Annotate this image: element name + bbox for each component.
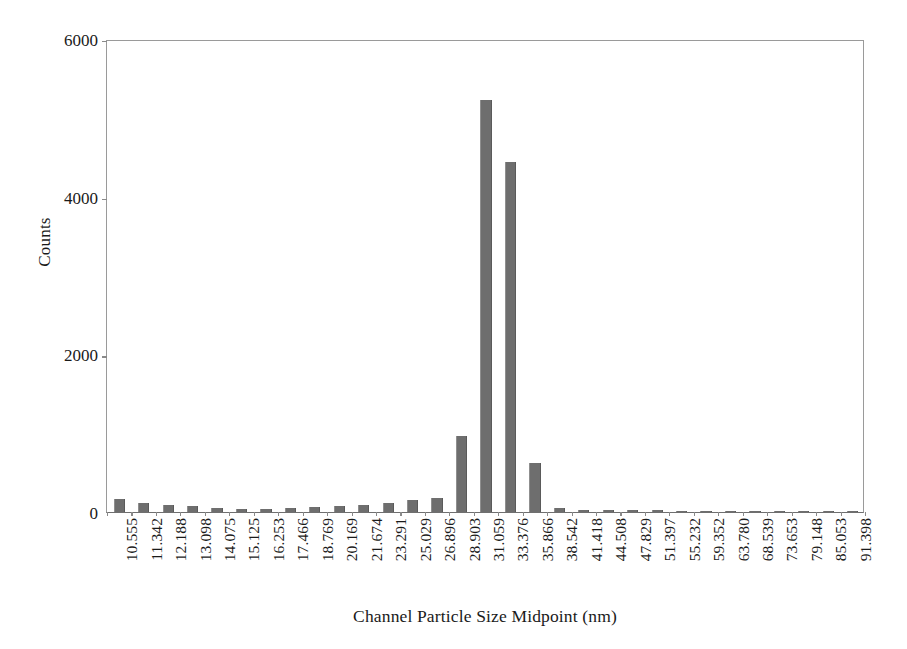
x-tick-mark — [254, 512, 255, 516]
x-tick-label: 23.291 — [393, 518, 409, 561]
bar — [456, 436, 467, 512]
bar — [114, 499, 125, 512]
x-tick-mark — [743, 512, 744, 516]
x-tick-mark — [474, 512, 475, 516]
y-tick-label: 4000 — [36, 189, 98, 206]
x-tick-label: 47.829 — [638, 518, 654, 561]
x-tick-mark — [229, 512, 230, 516]
x-tick-label: 59.352 — [711, 518, 727, 561]
y-tick-mark — [102, 356, 107, 357]
x-tick-label: 28.903 — [467, 518, 483, 561]
x-tick-mark — [596, 512, 597, 516]
bar — [138, 503, 149, 512]
bar — [529, 463, 540, 512]
x-tick-mark — [645, 512, 646, 516]
x-tick-label: 16.253 — [271, 518, 287, 561]
chart-figure: Counts 0200040006000 10.55511.34212.1881… — [0, 0, 907, 649]
x-tick-label: 31.059 — [491, 518, 507, 561]
bar — [260, 509, 271, 512]
x-axis-title: Channel Particle Size Midpoint (nm) — [106, 606, 864, 627]
x-tick-mark — [572, 512, 573, 516]
bar — [187, 506, 198, 512]
x-tick-label: 91.398 — [858, 518, 874, 561]
x-tick-mark — [180, 512, 181, 516]
x-tick-label: 11.342 — [149, 518, 165, 561]
bar — [627, 510, 638, 512]
bar — [676, 511, 687, 512]
x-tick-mark — [718, 512, 719, 516]
x-tick-mark — [425, 512, 426, 516]
x-tick-mark — [841, 512, 842, 516]
x-tick-label: 20.169 — [344, 518, 360, 561]
x-tick-mark — [816, 512, 817, 516]
x-tick-label: 17.466 — [295, 518, 311, 561]
bar — [774, 511, 785, 512]
x-tick-label: 12.188 — [173, 518, 189, 561]
y-tick-label: 0 — [36, 505, 98, 522]
x-tick-mark — [547, 512, 548, 516]
x-tick-label: 73.653 — [784, 518, 800, 561]
x-tick-label: 85.053 — [833, 518, 849, 561]
x-tick-mark — [107, 512, 108, 516]
x-tick-label: 35.866 — [540, 518, 556, 561]
bar — [554, 508, 565, 512]
x-tick-mark — [620, 512, 621, 516]
x-tick-label: 33.376 — [515, 518, 531, 561]
x-tick-mark — [449, 512, 450, 516]
bar — [358, 505, 369, 512]
x-tick-mark — [669, 512, 670, 516]
x-tick-mark — [767, 512, 768, 516]
x-tick-mark — [131, 512, 132, 516]
bar — [211, 508, 222, 512]
bar — [309, 507, 320, 512]
bar — [236, 509, 247, 512]
x-tick-label: 10.555 — [124, 518, 140, 561]
y-axis-tick-labels: 0200040006000 — [30, 0, 98, 649]
y-tick-label: 6000 — [36, 32, 98, 49]
x-tick-label: 68.539 — [760, 518, 776, 561]
bar — [505, 162, 516, 512]
y-tick-label: 2000 — [36, 347, 98, 364]
x-tick-mark — [400, 512, 401, 516]
x-tick-label: 25.029 — [418, 518, 434, 561]
bar — [700, 511, 711, 512]
x-tick-label: 14.075 — [222, 518, 238, 561]
x-tick-label: 38.542 — [564, 518, 580, 561]
bar — [603, 510, 614, 512]
x-tick-label: 13.098 — [198, 518, 214, 561]
bar — [407, 500, 418, 512]
x-tick-label: 26.896 — [442, 518, 458, 561]
x-tick-mark — [278, 512, 279, 516]
x-tick-label: 15.125 — [246, 518, 262, 561]
bar — [163, 505, 174, 512]
bar — [480, 100, 491, 512]
bar — [431, 498, 442, 512]
bar-series — [107, 41, 863, 512]
x-tick-mark — [376, 512, 377, 516]
x-tick-mark — [303, 512, 304, 516]
x-tick-mark — [792, 512, 793, 516]
x-tick-label: 21.674 — [369, 518, 385, 561]
x-tick-mark — [327, 512, 328, 516]
x-axis-tick-labels: 10.55511.34212.18813.09814.07515.12516.2… — [106, 518, 864, 602]
bar — [578, 510, 589, 512]
x-tick-label: 51.397 — [662, 518, 678, 561]
y-tick-mark — [102, 41, 107, 42]
plot-area — [106, 40, 864, 513]
x-tick-label: 18.769 — [320, 518, 336, 561]
bar — [798, 511, 809, 512]
x-tick-label: 63.780 — [736, 518, 752, 561]
x-tick-mark — [498, 512, 499, 516]
y-tick-mark — [102, 199, 107, 200]
bar — [749, 511, 760, 512]
x-tick-mark — [156, 512, 157, 516]
bar — [334, 506, 345, 512]
x-tick-mark — [352, 512, 353, 516]
x-tick-label: 44.508 — [613, 518, 629, 561]
x-tick-label: 55.232 — [687, 518, 703, 561]
x-tick-mark — [694, 512, 695, 516]
bar — [823, 511, 834, 512]
bar — [383, 503, 394, 512]
bar — [725, 511, 736, 512]
x-tick-mark — [523, 512, 524, 516]
